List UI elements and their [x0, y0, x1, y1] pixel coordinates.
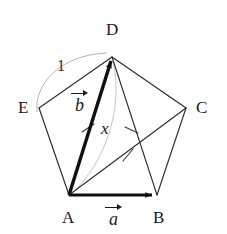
vector-a-letter: a: [105, 210, 122, 228]
vertex-label-A: A: [62, 209, 74, 226]
length-label-x: x: [101, 120, 109, 137]
vector-b-letter: b: [71, 96, 88, 114]
edge-C-B: [157, 108, 186, 195]
diagonal-A-C: [69, 108, 186, 195]
vector-a-label: a: [105, 204, 122, 228]
vector-b-label: b: [71, 90, 88, 114]
geometry-figure: D E C A B b a x 1: [0, 0, 227, 234]
vector-a-arrow-accent-icon: [105, 204, 122, 211]
vertex-label-B: B: [153, 209, 164, 226]
vector-b-arrow-accent-icon: [71, 90, 88, 97]
length-label-one: 1: [57, 58, 65, 74]
diagonal-D-B: [112, 57, 157, 195]
pentagon-outline: [39, 57, 186, 195]
edge-D-C: [112, 57, 186, 108]
vertex-label-D: D: [106, 21, 118, 38]
edge-A-E: [39, 108, 69, 195]
pentagon-diagonals: [69, 57, 186, 195]
vertex-label-E: E: [18, 99, 28, 116]
vertex-label-C: C: [196, 99, 207, 116]
